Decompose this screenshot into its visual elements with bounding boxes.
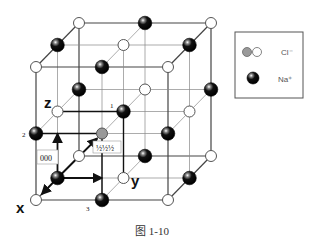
chloride-ion	[31, 62, 42, 73]
sodium-ion	[117, 105, 131, 119]
legend-label-sodium: Na⁺	[278, 75, 292, 84]
sodium-ion	[183, 38, 197, 52]
position-label-2: 2	[22, 131, 26, 139]
chloride-ion	[184, 106, 195, 117]
axis-label-y: y	[131, 172, 140, 189]
chloride-ion	[52, 106, 63, 117]
sodium-ion	[183, 171, 197, 185]
sodium-ion	[138, 16, 152, 30]
figure-caption: 图 1-10	[0, 222, 332, 238]
chloride-ion	[118, 40, 129, 51]
chloride-ion	[118, 173, 129, 184]
chloride-ion	[206, 18, 217, 29]
position-label-1: 1	[110, 102, 114, 110]
chloride-ion	[206, 151, 217, 162]
chloride-ion	[74, 151, 85, 162]
sodium-ion	[161, 127, 175, 141]
center-label: ½½½	[96, 144, 114, 153]
chloride-ion	[31, 195, 42, 206]
chloride-ion	[163, 62, 174, 73]
axis-label-z: z	[44, 94, 52, 111]
sodium-ion	[29, 127, 43, 141]
chloride-ion	[74, 18, 85, 29]
sodium-ion	[72, 83, 86, 97]
origin-label: 000	[40, 154, 52, 163]
sodium-ion	[95, 193, 109, 207]
sodium-ion	[51, 38, 65, 52]
sodium-ion	[204, 83, 218, 97]
axis-label-x: x	[16, 199, 25, 216]
sodium-ion	[95, 60, 109, 74]
legend: Cl⁻Na⁺	[235, 32, 303, 98]
chloride-ion	[163, 195, 174, 206]
position-label-3: 3	[86, 205, 90, 213]
legend-label-chloride: Cl⁻	[281, 48, 293, 57]
chloride-ion	[140, 84, 151, 95]
nacl-crystal-lattice: zyx000½½½123 Cl⁻Na⁺	[0, 0, 332, 247]
chloride-ion-highlighted	[97, 128, 108, 139]
sodium-ion	[51, 171, 65, 185]
sodium-ion	[138, 149, 152, 163]
